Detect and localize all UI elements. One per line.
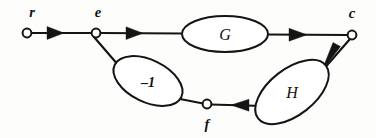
edge-e-to-G bbox=[100, 27, 184, 40]
arrowhead-e-to-G bbox=[126, 27, 143, 40]
edge-G-to-c bbox=[267, 28, 348, 41]
node-f-label: f bbox=[205, 116, 212, 132]
node-e: e bbox=[92, 4, 102, 37]
node-f-dot bbox=[203, 100, 212, 109]
signal-flow-graph-figure: G H –1 r e c f bbox=[0, 0, 376, 138]
node-e-label: e bbox=[95, 4, 102, 20]
node-r-label: r bbox=[29, 4, 35, 20]
arrowhead-G-to-c bbox=[289, 28, 307, 41]
arrowhead-r-to-e bbox=[47, 27, 64, 40]
node-f: f bbox=[203, 100, 212, 132]
block-negative-one: –1 bbox=[106, 46, 191, 116]
arrowhead-H-to-f bbox=[231, 99, 249, 111]
edge-line-G-to-c bbox=[267, 35, 348, 36]
edge-neg1-to-e bbox=[94, 37, 120, 67]
block-G-label: G bbox=[219, 26, 231, 43]
block-H-label: H bbox=[285, 84, 299, 101]
edge-line-f-to-neg1 bbox=[180, 99, 203, 104]
node-c-dot bbox=[348, 31, 357, 40]
block-G: G bbox=[182, 16, 268, 52]
signal-flow-graph-canvas: G H –1 r e c f bbox=[0, 0, 376, 138]
arrowhead-neg1-to-e bbox=[94, 37, 117, 63]
block-negative-one-label: –1 bbox=[140, 75, 155, 90]
node-r-dot bbox=[23, 29, 32, 38]
node-e-dot bbox=[92, 29, 101, 38]
node-c: c bbox=[348, 5, 357, 39]
node-c-label: c bbox=[349, 5, 356, 21]
edge-r-to-e bbox=[31, 27, 92, 40]
edge-f-to-neg1 bbox=[180, 99, 203, 104]
